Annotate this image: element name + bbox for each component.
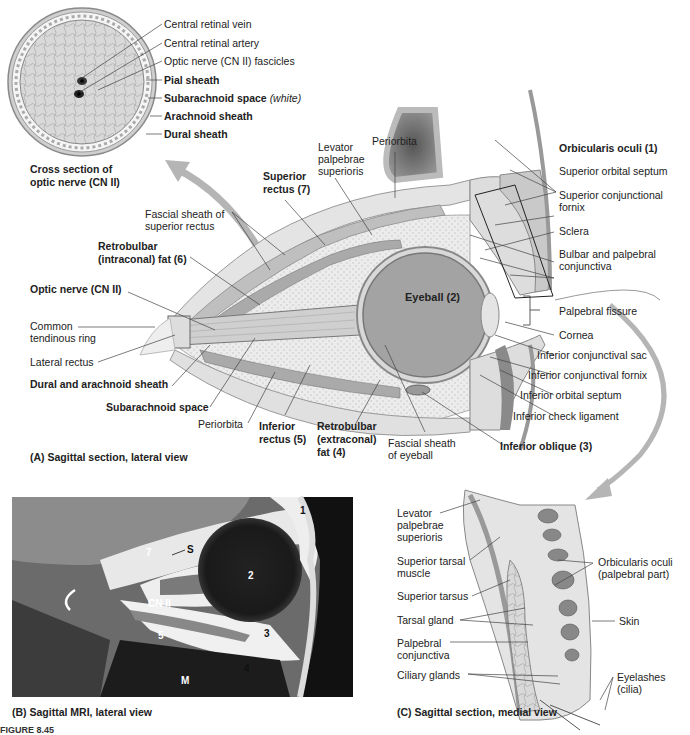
label-sclera: Sclera: [559, 225, 589, 237]
label-levator-c-2: palpebrae: [397, 519, 444, 531]
label-orbicularis-palpebral-1: Orbicularis oculi: [598, 556, 673, 568]
mri-marker-2: 2: [248, 570, 254, 581]
eyelid-sagittal-section: [440, 490, 615, 730]
label-common-tendinous-2: tendinous ring: [30, 332, 96, 344]
label-superior-tarsal-1: Superior tarsal: [397, 555, 465, 567]
label-orbicularis-oculi: Orbicularis oculi (1): [559, 142, 658, 154]
label-subarachnoid-text: Subarachnoid space: [164, 92, 267, 104]
label-fascial-sheath-eyeball-2: of eyeball: [388, 449, 433, 461]
optic-nerve-cross-section: [8, 8, 162, 156]
mri-marker-s: S: [187, 544, 194, 555]
mri-marker-4: 4: [244, 663, 250, 674]
label-retrobulbar-extraconal-1: Retrobulbar: [317, 420, 377, 432]
caption-cross-section-1: Cross section of: [30, 163, 112, 175]
label-eyelashes-1: Eyelashes: [617, 671, 665, 683]
label-orbicularis-palpebral-2: (palpebral part): [598, 568, 669, 580]
label-central-retinal-vein: Central retinal vein: [164, 18, 252, 30]
mri-image: [12, 497, 353, 697]
label-periorbita-bottom: Periorbita: [198, 418, 243, 430]
label-superior-tarsus: Superior tarsus: [397, 590, 468, 602]
label-inferior-conj-sac: Inferior conjunctival sac: [537, 349, 647, 361]
mri-marker-m: M: [181, 675, 189, 686]
label-cornea: Cornea: [559, 329, 593, 341]
orbit-sagittal-section: [78, 90, 556, 450]
label-levator-a-1: Levator: [318, 141, 353, 153]
label-optic-nerve: Optic nerve (CN II): [30, 283, 122, 295]
label-fascial-sheath-sr-1: Fascial sheath of: [145, 208, 224, 220]
label-central-retinal-artery: Central retinal artery: [164, 37, 259, 49]
label-eyeball: Eyeball (2): [405, 291, 460, 303]
label-lateral-rectus: Lateral rectus: [30, 356, 94, 368]
label-subarachnoid-space-cs: Subarachnoid space (white): [164, 92, 301, 104]
label-skin: Skin: [619, 615, 639, 627]
label-levator-c-3: superioris: [397, 531, 443, 543]
label-palpebral-conj-2: conjunctiva: [397, 649, 450, 661]
label-tarsal-gland: Tarsal gland: [397, 614, 454, 626]
label-inferior-conj-fornix: Inferior conjunctival fornix: [528, 369, 647, 381]
label-optic-nerve-fascicles: Optic nerve (CN II) fascicles: [164, 55, 295, 67]
label-bulbar-conjunctiva-1: Bulbar and palpebral: [559, 248, 656, 260]
label-dural-sheath: Dural sheath: [164, 128, 228, 140]
label-retrobulbar-extraconal-2: (extraconal): [317, 433, 377, 445]
label-inferior-rectus-1: Inferior: [259, 420, 295, 432]
mri-marker-1: 1: [300, 505, 306, 516]
label-retrobulbar-intraconal-2: (intraconal) fat (6): [98, 253, 187, 265]
label-superior-conj-fornix-1: Superior conjunctional: [559, 189, 663, 201]
label-common-tendinous-1: Common: [30, 320, 73, 332]
mri-marker-5: 5: [158, 630, 164, 641]
label-levator-c-1: Levator: [397, 507, 432, 519]
label-palpebral-conj-1: Palpebral: [397, 637, 441, 649]
mri-marker-7: 7: [146, 547, 152, 558]
label-levator-a-2: palpebrae: [318, 153, 365, 165]
label-inferior-check-ligament: Inferior check ligament: [513, 410, 619, 422]
label-eyelashes-2: (cilia): [617, 683, 642, 695]
anatomy-illustration: [0, 0, 690, 735]
label-fascial-sheath-sr-2: superior rectus: [145, 220, 214, 232]
label-inferior-rectus-2: rectus (5): [259, 433, 306, 445]
label-retrobulbar-extraconal-3: fat (4): [317, 446, 346, 458]
label-arachnoid-sheath: Arachnoid sheath: [164, 110, 253, 122]
caption-panel-c: (C) Sagittal section, medial view: [397, 706, 557, 718]
label-ciliary-glands: Ciliary glands: [397, 669, 460, 681]
label-pial-sheath: Pial sheath: [164, 74, 219, 86]
figure-number: FIGURE 8.45: [0, 724, 54, 735]
label-subarachnoid-space: Subarachnoid space: [106, 401, 209, 413]
label-superior-conj-fornix-2: fornix: [559, 201, 585, 213]
label-palpebral-fissure: Palpebral fissure: [559, 305, 637, 317]
label-superior-orbital-septum: Superior orbital septum: [559, 165, 668, 177]
label-retrobulbar-intraconal-1: Retrobulbar: [98, 240, 158, 252]
label-subarachnoid-suffix: (white): [270, 92, 302, 104]
caption-cross-section-2: optic nerve (CN II): [30, 176, 120, 188]
label-dural-arachnoid-sheath: Dural and arachnoid sheath: [30, 378, 168, 390]
caption-panel-a: (A) Sagittal section, lateral view: [30, 451, 188, 463]
mri-marker-3: 3: [264, 628, 270, 639]
arrow-to-panel-c: [585, 478, 612, 500]
label-superior-rectus-1: Superior: [263, 170, 306, 182]
label-inferior-oblique: Inferior oblique (3): [500, 440, 592, 452]
label-fascial-sheath-eyeball-1: Fascial sheath: [388, 437, 456, 449]
label-inferior-orbital-septum: Inferior orbital septum: [520, 389, 622, 401]
label-levator-a-3: superioris: [318, 165, 364, 177]
caption-panel-b: (B) Sagittal MRI, lateral view: [12, 706, 152, 718]
label-superior-tarsal-2: muscle: [397, 567, 430, 579]
label-periorbita-top: Periorbita: [372, 135, 417, 147]
mri-marker-cn2: CN II: [148, 598, 171, 609]
label-bulbar-conjunctiva-2: conjunctiva: [559, 260, 612, 272]
label-superior-rectus-2: rectus (7): [263, 183, 310, 195]
